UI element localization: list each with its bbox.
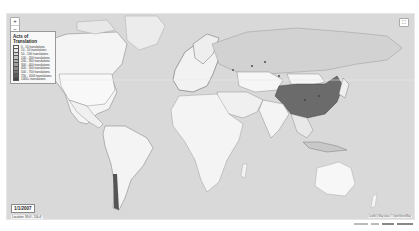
kazakhstan — [237, 72, 283, 92]
current-date: 1/1/2007 — [11, 204, 35, 213]
legend-item: 1000+ translations — [13, 77, 53, 81]
legend-title: Acts of Translation — [13, 34, 53, 44]
map-canvas[interactable] — [7, 14, 414, 219]
world-map[interactable]: + − Acts of Translation 0 - 10 translati… — [6, 13, 415, 220]
bottom-bars — [354, 223, 413, 226]
fullscreen-icon: ⛶ — [402, 19, 406, 25]
russia — [212, 28, 402, 74]
legend: Acts of Translation 0 - 10 translations … — [10, 31, 56, 84]
indonesia — [303, 142, 347, 152]
australia — [315, 162, 355, 196]
cursor-coordinates: Location: 39.0°, 116.4° — [11, 215, 43, 219]
zoom-in-button[interactable]: + — [11, 18, 19, 25]
attribution: Leaflet | Map data © OpenStreetMap — [368, 215, 412, 218]
south-america — [103, 126, 153, 210]
japan — [339, 78, 349, 98]
fullscreen-button[interactable]: ⛶ — [399, 18, 409, 27]
greenland — [125, 16, 165, 50]
